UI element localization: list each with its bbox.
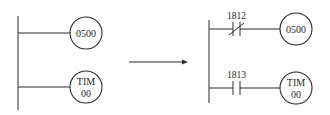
coil-label-line1: TIM xyxy=(287,77,305,88)
contact-address: 1813 xyxy=(227,70,246,80)
coil-label: 0500 xyxy=(76,28,96,39)
transform-arrow xyxy=(129,60,188,65)
contact-address: 1812 xyxy=(227,11,246,21)
arrow-head-icon xyxy=(182,60,188,65)
coil-label-line2: 00 xyxy=(291,89,301,100)
before-diagram: 0500 TIM 00 xyxy=(18,16,102,110)
coil-label-line2: 00 xyxy=(81,88,91,99)
no-contact-1813 xyxy=(233,81,240,95)
coil-label: 0500 xyxy=(286,24,306,35)
ladder-diagram: 0500 TIM 00 1812 0500 1813 TIM xyxy=(0,0,330,115)
coil-label-line1: TIM xyxy=(77,76,95,87)
after-diagram: 1812 0500 1813 TIM 00 xyxy=(209,11,312,104)
